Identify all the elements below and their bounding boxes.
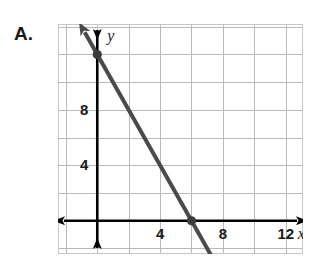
x-axis-label: x — [297, 225, 303, 242]
y-axis-label: y — [105, 27, 115, 45]
coordinate-plane-svg: 4812 48 x y — [58, 24, 303, 254]
choice-letter-label: A. — [14, 24, 33, 43]
data-point-marker — [187, 216, 196, 225]
y-tick-label: 4 — [80, 156, 89, 173]
data-point-marker — [93, 50, 102, 59]
x-tick-label: 8 — [219, 225, 227, 242]
coordinate-plane: 4812 48 x y — [58, 24, 303, 254]
x-tick-label: 12 — [277, 225, 294, 242]
x-tick-label: 4 — [156, 225, 165, 242]
y-tick-label: 8 — [80, 101, 88, 118]
graph-figure: A. — [0, 0, 312, 259]
